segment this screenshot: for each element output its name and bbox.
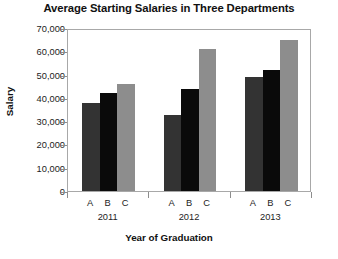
x-axis-group-tick [148,192,149,198]
y-axis-tick-label: 30,000 [37,117,65,127]
x-axis-subcategory-label: B [105,198,111,208]
y-axis-tick-label: 50,000 [37,71,65,81]
x-axis-group-label: 2011 [98,212,118,222]
bar-chart: Average Starting Salaries in Three Depar… [0,0,338,259]
x-axis-subcategory-label: A [250,198,256,208]
bar [263,70,281,191]
bar [280,40,298,191]
bar [199,49,217,191]
x-axis-subcategory-label: A [168,198,174,208]
plot-area [67,29,311,192]
x-axis-group-tick [67,192,68,198]
x-axis-subcategory-label: C [203,198,210,208]
bar [82,103,100,191]
bar [117,84,135,191]
x-axis-group-tick [311,192,312,198]
x-axis-subcategory-label: B [267,198,273,208]
bar [164,115,182,191]
x-axis-title: Year of Graduation [0,232,338,243]
y-axis-tick-label: 10,000 [37,164,65,174]
bars-layer [68,30,310,191]
chart-title: Average Starting Salaries in Three Depar… [0,2,338,14]
y-axis-title: Salary [4,72,15,132]
x-axis-subcategory-label: C [122,198,129,208]
x-axis-group-label: 2012 [179,212,200,222]
y-axis-tick-label: 20,000 [37,140,65,150]
y-axis-tick-label: 0 [60,187,65,197]
x-axis-group-label: 2013 [260,212,281,222]
bar [245,77,263,191]
y-axis-tick-label: 70,000 [37,24,65,34]
x-axis-group-tick [230,192,231,198]
y-axis-tick-label: 40,000 [37,94,65,104]
x-axis-subcategory-label: A [87,198,93,208]
y-axis-tick-label: 60,000 [37,47,65,57]
bar [181,89,199,191]
x-axis-subcategory-label: B [186,198,192,208]
x-axis-subcategory-label: C [284,198,291,208]
bar [100,93,118,191]
